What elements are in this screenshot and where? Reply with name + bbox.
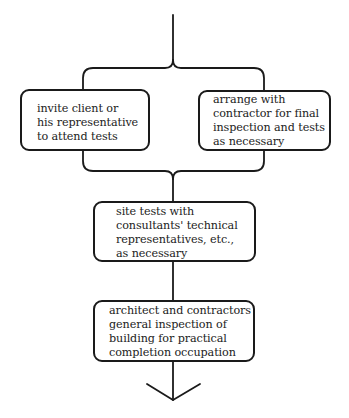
node-text: inspection and tests [213, 121, 329, 135]
node-text: to attend tests [37, 130, 148, 144]
node-text: architect and contractors [109, 304, 253, 318]
node-text: general inspection of [109, 318, 253, 332]
node-text: contractor for final [213, 107, 329, 121]
node-invite-client: invite client or his representative to a… [20, 89, 150, 151]
node-site-tests: site tests with consultants' technical r… [93, 201, 256, 262]
node-text: his representative [37, 116, 148, 130]
node-text: consultants' technical [116, 219, 254, 233]
node-text: invite client or [37, 102, 148, 116]
node-text: building for practical [109, 332, 253, 346]
node-text: arrange with [213, 93, 329, 107]
split-brace [83, 60, 173, 89]
node-text: site tests with [116, 205, 254, 219]
node-architect-inspection: architect and contractors general inspec… [93, 300, 255, 362]
node-text: as necessary [116, 247, 254, 261]
node-text: representatives, etc., [116, 233, 254, 247]
node-arrange-contractor: arrange with contractor for final inspec… [198, 90, 331, 151]
merge-brace [83, 151, 173, 179]
node-text: as necessary [213, 135, 329, 149]
node-text: completion occupation [109, 346, 253, 360]
